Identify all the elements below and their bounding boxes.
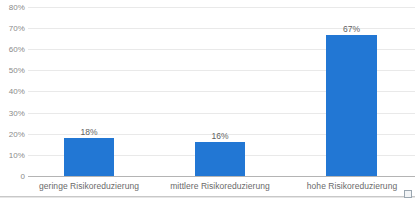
bar-geringe-risikoreduzierung[interactable]	[64, 138, 114, 176]
ytick-label-20: 20%	[0, 130, 25, 139]
category-label-geringe: geringe Risikoreduzierung	[19, 181, 159, 192]
corner-marker-icon	[404, 190, 412, 198]
ytick-label-80: 80%	[0, 3, 25, 12]
ytick-label-60: 60%	[0, 45, 25, 54]
ytick-label-10: 10%	[0, 151, 25, 160]
bar-value-label-hohe: 67%	[326, 24, 377, 34]
footer-divider-shadow	[0, 197, 415, 198]
axis-baseline	[28, 176, 415, 177]
bar-hohe-risikoreduzierung[interactable]	[326, 35, 377, 176]
ytick-label-40: 40%	[0, 87, 25, 96]
category-label-hohe: hohe Risikoreduzierung	[286, 181, 415, 192]
bar-mittlere-risikoreduzierung[interactable]	[195, 142, 245, 176]
ytick-label-50: 50%	[0, 66, 25, 75]
bar-chart: 80% 70% 60% 50% 40% 30% 20% 10% 0 18% 16…	[0, 0, 415, 203]
ytick-label-70: 70%	[0, 24, 25, 33]
ytick-label-0: 0	[0, 172, 25, 181]
ytick-label-30: 30%	[0, 109, 25, 118]
gridline-80	[28, 7, 415, 8]
bar-value-label-geringe: 18%	[64, 127, 114, 137]
category-label-mittlere: mittlere Risikoreduzierung	[150, 181, 290, 192]
plot-area: 80% 70% 60% 50% 40% 30% 20% 10% 0 18% 16…	[0, 0, 415, 203]
bar-value-label-mittlere: 16%	[195, 131, 245, 141]
